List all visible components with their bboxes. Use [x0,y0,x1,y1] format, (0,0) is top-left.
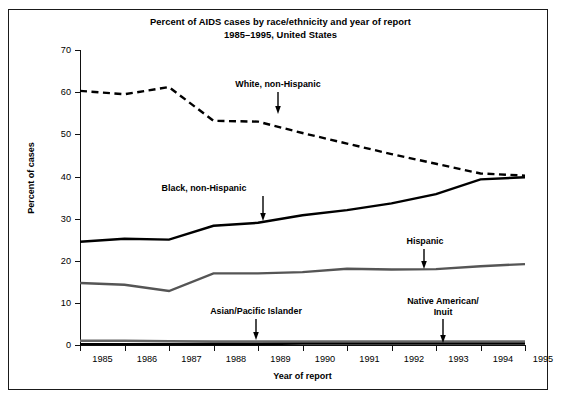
chart-figure: Percent of AIDS cases by race/ethnicity … [0,0,561,399]
annotation-arrow-native-american [0,0,561,399]
